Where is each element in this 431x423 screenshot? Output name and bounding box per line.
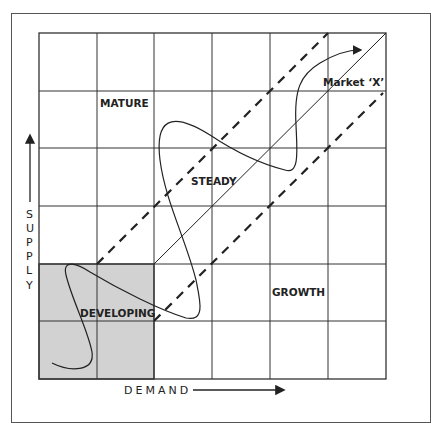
svg-text:P: P [26,236,36,249]
svg-text:Y: Y [25,279,36,292]
supply-axis-label: S U P P L Y [25,208,37,292]
svg-text:U: U [26,222,37,235]
svg-text:L: L [26,264,35,277]
demand-axis-label: DEMAND [124,384,191,397]
svg-text:P: P [26,250,36,263]
quadrant-label-developing: DEVELOPING [80,307,155,319]
market-x-label: Market ‘X’ [323,76,384,88]
lower-dashed-line [154,93,383,321]
quadrant-label-growth: GROWTH [272,286,325,298]
svg-text:S: S [26,208,36,221]
quadrant-label-mature: MATURE [100,97,149,109]
quadrant-label-steady: STEADY [191,175,237,187]
